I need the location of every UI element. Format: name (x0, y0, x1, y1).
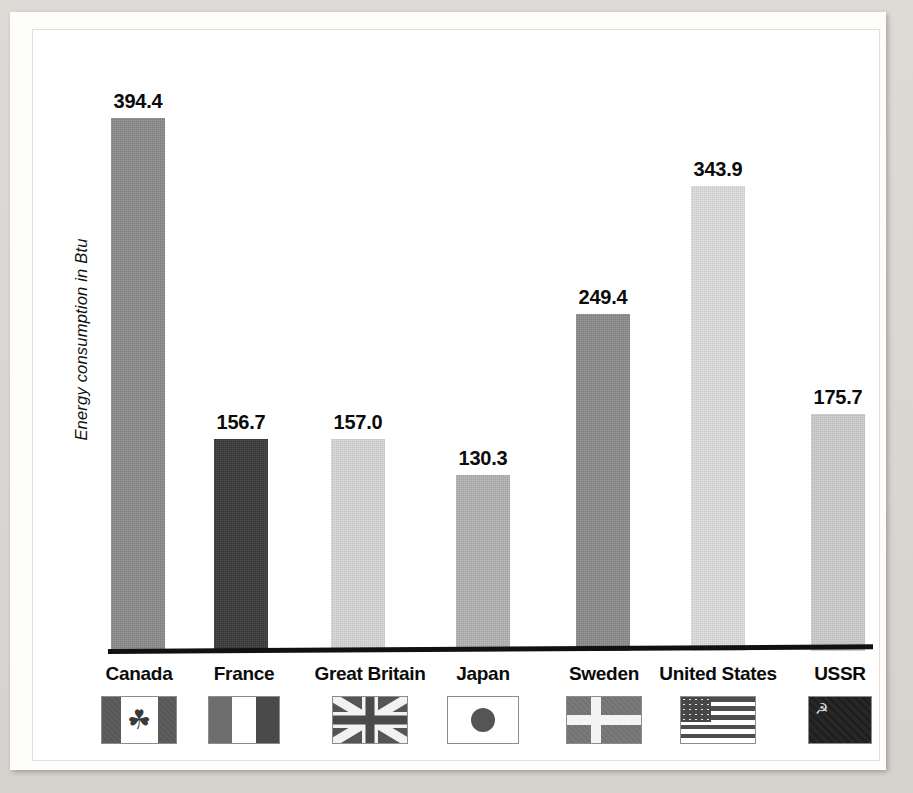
flag-cross-horizontal (567, 715, 641, 725)
category-label-great-britain: Great Britain (305, 663, 435, 685)
bar-sweden[interactable] (576, 314, 630, 651)
bar-value-canada: 394.4 (113, 90, 162, 113)
flag-wrap-france (209, 697, 279, 743)
flag-band-left (209, 697, 232, 743)
category-label-united-states: United States (651, 663, 785, 685)
chart-plate: Energy consumption in Btu 394.4 156.7 (32, 29, 880, 761)
bar-great-britain[interactable] (331, 439, 385, 651)
category-label-france: France (209, 663, 279, 685)
flag-horizontal-cross (333, 716, 407, 725)
flag-wrap-great-britain (305, 697, 435, 743)
flag-wrap-sweden (561, 697, 647, 743)
category-label-ussr: USSR (809, 663, 871, 685)
scanned-page-background: Energy consumption in Btu 394.4 156.7 (0, 0, 913, 793)
flag-ussr-icon: ☭ (809, 697, 871, 743)
flag-wrap-japan (448, 697, 518, 743)
category-canada[interactable]: Canada ☘ (101, 663, 177, 743)
bar-value-ussr: 175.7 (813, 386, 862, 409)
hammer-sickle-icon: ☭ (815, 701, 828, 716)
bar-ussr[interactable] (811, 414, 865, 651)
maple-leaf-icon: ☘ (127, 707, 151, 734)
category-sweden[interactable]: Sweden (561, 663, 647, 743)
bar-value-great-britain: 157.0 (333, 411, 382, 434)
bar-canada[interactable] (111, 118, 165, 651)
flag-band-left (102, 697, 121, 743)
flag-band-right (256, 697, 279, 743)
flag-france-icon (209, 697, 279, 743)
bar-france[interactable] (214, 439, 268, 651)
flag-united-states-icon (681, 697, 755, 743)
category-label-japan: Japan (448, 663, 518, 685)
bar-value-sweden: 249.4 (578, 286, 627, 309)
bar-united-states[interactable] (691, 186, 745, 651)
bar-value-united-states: 343.9 (693, 158, 742, 181)
category-axis: Canada ☘ France (33, 663, 879, 763)
bar-value-japan: 130.3 (458, 447, 507, 470)
category-ussr[interactable]: USSR ☭ (809, 663, 871, 743)
flag-canton-stars (681, 697, 711, 722)
flag-wrap-united-states (651, 697, 785, 743)
category-great-britain[interactable]: Great Britain (305, 663, 435, 743)
plot-area: 394.4 156.7 157.0 130.3 (33, 30, 879, 651)
bar-value-france: 156.7 (216, 411, 265, 434)
flag-wrap-canada: ☘ (101, 697, 177, 743)
category-label-canada: Canada (101, 663, 177, 685)
category-france[interactable]: France (209, 663, 279, 743)
flag-wrap-ussr: ☭ (809, 697, 871, 743)
flag-canada-icon: ☘ (102, 697, 176, 743)
rising-sun-disc (471, 708, 495, 732)
category-japan[interactable]: Japan (448, 663, 518, 743)
bar-japan[interactable] (456, 475, 510, 651)
paper-sheet: Energy consumption in Btu 394.4 156.7 (10, 12, 886, 770)
flag-japan-icon (448, 697, 518, 743)
flag-great-britain-icon (333, 697, 407, 743)
flag-band-right (158, 697, 177, 743)
category-label-sweden: Sweden (561, 663, 647, 685)
bar-chart: Energy consumption in Btu 394.4 156.7 (33, 30, 879, 760)
flag-sweden-icon (567, 697, 641, 743)
category-united-states[interactable]: United States (651, 663, 785, 743)
